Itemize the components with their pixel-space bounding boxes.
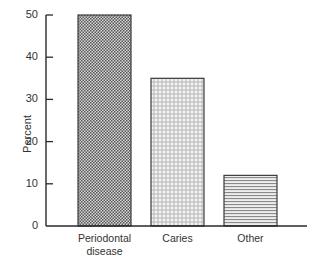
x-category-label: Caries: [138, 232, 218, 245]
y-tick-label: 0: [16, 219, 38, 231]
bar-caries: [151, 78, 204, 226]
y-axis-label: Percent: [21, 115, 33, 153]
y-tick-label: 50: [16, 8, 38, 20]
chart-canvas: [0, 0, 320, 264]
y-tick-label: 10: [16, 177, 38, 189]
bars-group: [78, 15, 277, 226]
bar-periodontal-disease: [78, 15, 131, 226]
y-tick-label: 40: [16, 50, 38, 62]
bar-chart: 01020304050 Percent PeriodontaldiseaseCa…: [0, 0, 320, 264]
x-category-label: Periodontaldisease: [65, 232, 145, 258]
y-tick-label: 30: [16, 92, 38, 104]
bar-other: [224, 175, 277, 226]
x-category-label: Other: [211, 232, 291, 245]
